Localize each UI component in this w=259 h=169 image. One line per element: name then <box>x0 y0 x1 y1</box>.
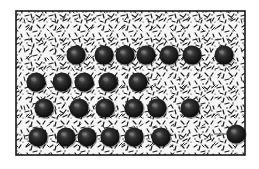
sphere-highlight <box>100 103 105 107</box>
sphere-body <box>137 46 156 65</box>
sphere-body <box>125 128 144 147</box>
sphere-highlight <box>156 132 161 136</box>
sphere-highlight <box>133 77 138 81</box>
sphere-highlight <box>103 77 108 81</box>
sphere-body <box>70 99 89 118</box>
sphere-highlight <box>231 129 236 133</box>
sphere-body <box>148 99 167 118</box>
sphere-body <box>53 73 72 92</box>
lattice-diagram <box>0 0 259 169</box>
sphere-body <box>35 99 54 118</box>
sphere-body <box>95 46 114 65</box>
sphere-highlight <box>219 50 224 54</box>
sphere-body <box>227 125 246 144</box>
sphere-highlight <box>61 132 66 136</box>
sphere-body <box>101 128 120 147</box>
sphere-body <box>27 73 46 92</box>
sphere-body <box>96 99 115 118</box>
sphere-body <box>57 128 76 147</box>
sphere-highlight <box>141 50 146 54</box>
sphere-highlight <box>129 132 134 136</box>
sphere-body <box>215 46 234 65</box>
sphere-body <box>99 73 118 92</box>
sphere-body <box>129 73 148 92</box>
particle-lattice-svg <box>0 0 259 169</box>
sphere-highlight <box>31 77 36 81</box>
sphere-highlight <box>185 103 190 107</box>
sphere-highlight <box>71 50 76 54</box>
sphere-highlight <box>129 103 134 107</box>
sphere-highlight <box>39 103 44 107</box>
sphere-body <box>152 128 171 147</box>
sphere-highlight <box>33 132 38 136</box>
sphere-highlight <box>152 103 157 107</box>
sphere-highlight <box>82 132 87 136</box>
sphere-body <box>67 46 86 65</box>
sphere-body <box>183 46 202 65</box>
sphere-body <box>116 46 135 65</box>
sphere-highlight <box>79 77 84 81</box>
sphere-highlight <box>120 50 125 54</box>
sphere-body <box>78 128 97 147</box>
sphere-body <box>125 99 144 118</box>
sphere-body <box>160 46 179 65</box>
sphere-body <box>181 99 200 118</box>
sphere-highlight <box>187 50 192 54</box>
sphere-highlight <box>57 77 62 81</box>
sphere-highlight <box>105 132 110 136</box>
sphere-highlight <box>74 103 79 107</box>
sphere-body <box>75 73 94 92</box>
sphere-body <box>29 128 48 147</box>
sphere-highlight <box>99 50 104 54</box>
sphere-highlight <box>164 50 169 54</box>
